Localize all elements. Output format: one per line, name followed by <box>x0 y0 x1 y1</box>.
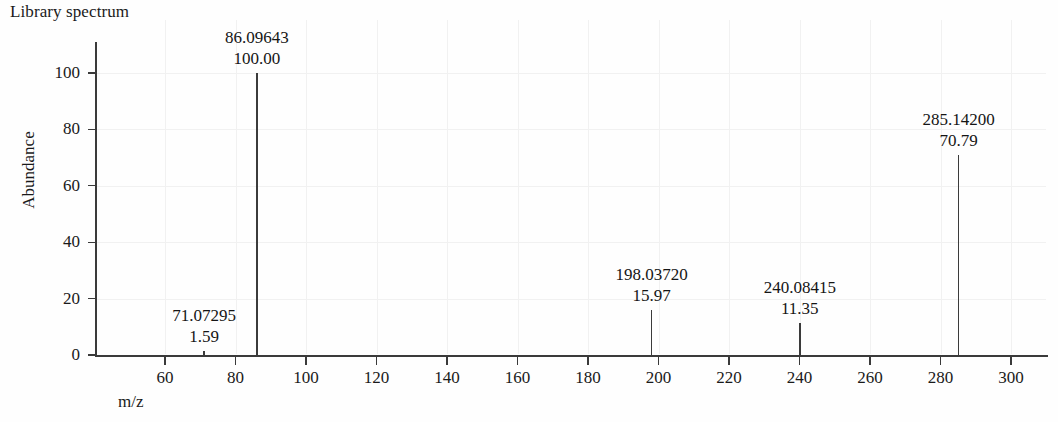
peak-mz-value: 240.08415 <box>710 277 890 298</box>
x-tick <box>376 356 377 365</box>
y-tick <box>88 242 96 243</box>
x-tick-label: 120 <box>347 368 407 387</box>
y-axis-line <box>95 42 97 356</box>
x-tick-label: 140 <box>417 368 477 387</box>
peak-mz-value: 86.09643 <box>167 27 347 48</box>
x-tick <box>305 356 306 365</box>
x-tick <box>235 356 236 365</box>
peak-label: 285.1420070.79 <box>869 109 1049 151</box>
peak-label: 240.0841511.35 <box>710 277 890 319</box>
x-tick-label: 300 <box>981 368 1041 387</box>
gridline-vertical <box>1011 20 1012 354</box>
peak-mz-value: 71.07295 <box>114 305 294 326</box>
y-tick <box>88 298 96 299</box>
spectrum-figure: Library spectrum 020406080100 6080100120… <box>0 0 1058 422</box>
x-tick-label: 240 <box>770 368 830 387</box>
y-tick <box>88 185 96 186</box>
y-tick-label: 20 <box>38 290 80 307</box>
gridline-vertical <box>377 20 378 354</box>
y-tick-label: 60 <box>38 177 80 194</box>
peak-abundance-value: 11.35 <box>710 298 890 319</box>
x-axis-line <box>95 355 1048 357</box>
x-tick-label: 220 <box>699 368 759 387</box>
gridline-vertical <box>941 20 942 354</box>
x-tick <box>1010 356 1011 365</box>
peak-abundance-value: 1.59 <box>114 326 294 347</box>
peak-abundance-value: 100.00 <box>167 48 347 69</box>
y-tick-label: 40 <box>38 233 80 250</box>
x-tick-label: 160 <box>488 368 548 387</box>
x-tick-label: 60 <box>135 368 195 387</box>
y-tick-label: 0 <box>38 346 80 363</box>
x-tick <box>658 356 659 365</box>
gridline-horizontal <box>96 242 1046 243</box>
y-tick-label: 100 <box>38 64 80 81</box>
gridline-vertical <box>518 20 519 354</box>
x-tick-label: 180 <box>558 368 618 387</box>
x-tick <box>446 356 447 365</box>
peak-bar <box>958 155 960 355</box>
x-tick-label: 100 <box>276 368 336 387</box>
gridline-horizontal <box>96 73 1046 74</box>
x-tick <box>799 356 800 365</box>
x-tick <box>517 356 518 365</box>
peak-bar <box>256 73 258 355</box>
y-axis-title: Abundance <box>19 110 39 230</box>
gridline-horizontal <box>96 186 1046 187</box>
x-tick <box>940 356 941 365</box>
gridline-vertical <box>447 20 448 354</box>
gridline-vertical <box>306 20 307 354</box>
x-tick-label: 200 <box>629 368 689 387</box>
y-tick-label: 80 <box>38 120 80 137</box>
peak-label: 86.09643100.00 <box>167 27 347 69</box>
x-tick <box>587 356 588 365</box>
peak-bar <box>799 323 801 355</box>
x-tick <box>164 356 165 365</box>
plot-area: 020406080100 608010012014016018020022024… <box>0 0 1058 422</box>
y-tick <box>88 129 96 130</box>
peak-label: 71.072951.59 <box>114 305 294 347</box>
x-tick-label: 260 <box>840 368 900 387</box>
x-tick-label: 80 <box>206 368 266 387</box>
x-axis-title: m/z <box>118 392 144 412</box>
y-tick <box>88 72 96 73</box>
peak-bar <box>651 310 653 355</box>
x-tick <box>728 356 729 365</box>
x-tick <box>869 356 870 365</box>
y-tick <box>88 354 96 355</box>
peak-abundance-value: 70.79 <box>869 130 1049 151</box>
x-tick-label: 280 <box>911 368 971 387</box>
peak-mz-value: 285.14200 <box>869 109 1049 130</box>
peak-bar <box>203 351 205 355</box>
